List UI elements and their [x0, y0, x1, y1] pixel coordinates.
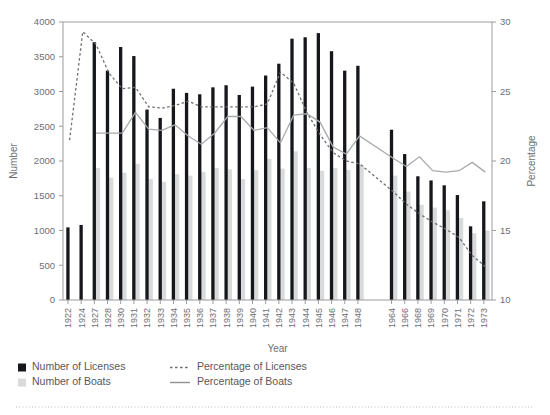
- y-tick-label: 500: [39, 260, 55, 271]
- y-tick-label: 1500: [34, 190, 55, 201]
- bar-licenses: [482, 201, 485, 300]
- chart-figure: 0500100015002000250030003500400010152025…: [0, 0, 550, 415]
- y-axis-title: Number: [8, 143, 19, 179]
- x-tick-label: 1947: [340, 308, 350, 328]
- bar-licenses: [456, 195, 459, 300]
- bar-licenses: [132, 56, 135, 300]
- bar-licenses: [429, 180, 432, 300]
- bar-licenses: [290, 39, 293, 300]
- x-tick-label: 1971: [453, 308, 463, 328]
- legend-swatch-licenses: [18, 364, 26, 372]
- chart-svg: 0500100015002000250030003500400010152025…: [0, 0, 550, 415]
- bar-licenses: [443, 185, 446, 300]
- x-tick-label: 1922: [63, 308, 73, 328]
- x-tick-label: 1939: [235, 308, 245, 328]
- bar-boats: [280, 169, 285, 300]
- x-tick-label: 1944: [301, 308, 311, 328]
- bar-licenses: [356, 66, 359, 300]
- bar-licenses: [330, 51, 333, 300]
- bar-licenses: [145, 110, 148, 300]
- legend-item-label: Percentage of Licenses: [197, 360, 307, 372]
- bar-boats: [459, 218, 464, 300]
- x-tick-label: 1943: [287, 308, 297, 328]
- bar-boats: [122, 173, 127, 300]
- x-tick-label: 1931: [129, 308, 139, 328]
- x-tick-label: 1933: [156, 308, 166, 328]
- bar-boats: [359, 165, 364, 300]
- x-tick-label: 1928: [103, 308, 113, 328]
- x-tick-label: 1924: [77, 308, 87, 328]
- bar-boats: [96, 168, 101, 300]
- legend-item-label: Number of Licenses: [32, 360, 125, 372]
- bars-group: [66, 33, 489, 300]
- bar-boats: [320, 171, 325, 300]
- y-tick-label: 2000: [34, 155, 55, 166]
- x-tick-label: 1966: [400, 308, 410, 328]
- x-axis-title: Year: [267, 343, 288, 354]
- y-tick-label: 2500: [34, 121, 55, 132]
- bar-licenses: [93, 42, 96, 300]
- y2-tick-label: 15: [500, 225, 511, 236]
- bar-boats: [227, 169, 232, 300]
- bar-licenses: [277, 64, 280, 300]
- y-tick-label: 0: [50, 294, 55, 305]
- bar-licenses: [304, 37, 307, 300]
- bar-licenses: [390, 130, 393, 300]
- bar-licenses: [317, 33, 320, 300]
- bar-licenses: [79, 225, 82, 300]
- bar-boats: [254, 170, 259, 300]
- x-tick-label: 1941: [261, 308, 271, 328]
- y-tick-label: 1000: [34, 225, 55, 236]
- bar-boats: [109, 178, 114, 300]
- y2-tick-label: 30: [500, 16, 511, 27]
- bar-licenses: [159, 118, 162, 300]
- bar-licenses: [172, 89, 175, 300]
- bar-boats: [241, 179, 246, 300]
- bar-licenses: [185, 93, 188, 300]
- legend-item-label: Percentage of Boats: [197, 375, 292, 387]
- y2-axis-title: Percentage: [526, 135, 537, 187]
- bar-boats: [432, 208, 437, 300]
- y2-tick-label: 25: [500, 86, 511, 97]
- y-tick-label: 3000: [34, 86, 55, 97]
- bar-boats: [406, 192, 411, 300]
- bar-licenses: [469, 226, 472, 300]
- bar-boats: [306, 168, 311, 300]
- bar-boats: [419, 205, 424, 300]
- axes-group: 0500100015002000250030003500400010152025…: [8, 16, 537, 354]
- x-tick-label: 1970: [440, 308, 450, 328]
- x-tick-label: 1948: [353, 308, 363, 328]
- bar-licenses: [416, 176, 419, 300]
- x-tick-label: 1938: [222, 308, 232, 328]
- bar-licenses: [198, 94, 201, 300]
- x-tick-label: 1969: [426, 308, 436, 328]
- bar-boats: [472, 233, 477, 300]
- bar-boats: [445, 210, 450, 300]
- bar-boats: [161, 182, 166, 300]
- bar-licenses: [211, 87, 214, 300]
- bar-boats: [333, 168, 338, 300]
- bar-boats: [135, 164, 140, 300]
- x-tick-label: 1930: [116, 308, 126, 328]
- y2-tick-label: 10: [500, 294, 511, 305]
- bar-licenses: [343, 71, 346, 300]
- bar-licenses: [119, 47, 122, 300]
- x-tick-label: 1927: [90, 308, 100, 328]
- bar-licenses: [264, 76, 267, 300]
- bar-boats: [214, 168, 219, 300]
- x-tick-label: 1937: [208, 308, 218, 328]
- x-tick-label: 1968: [413, 308, 423, 328]
- bar-licenses: [106, 71, 109, 300]
- y2-tick-label: 20: [500, 155, 511, 166]
- bar-licenses: [238, 95, 241, 300]
- bar-boats: [201, 172, 206, 300]
- x-tick-label: 1942: [274, 308, 284, 328]
- x-tick-label: 1932: [142, 308, 152, 328]
- x-tick-label: 1935: [182, 308, 192, 328]
- legend-swatch-boats: [18, 379, 26, 387]
- y-tick-label: 3500: [34, 51, 55, 62]
- x-tick-label: 1945: [314, 308, 324, 328]
- bar-licenses: [66, 227, 69, 300]
- x-tick-label: 1934: [169, 308, 179, 328]
- x-tick-label: 1940: [248, 308, 258, 328]
